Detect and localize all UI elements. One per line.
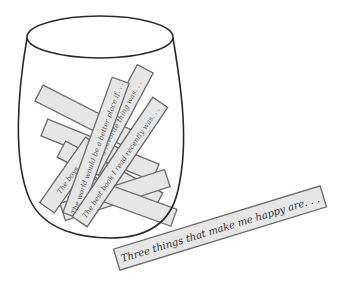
jar-rim — [27, 16, 173, 58]
memory-jar-illustration: My favorite thing was. . . The boys. . .… — [0, 0, 342, 300]
